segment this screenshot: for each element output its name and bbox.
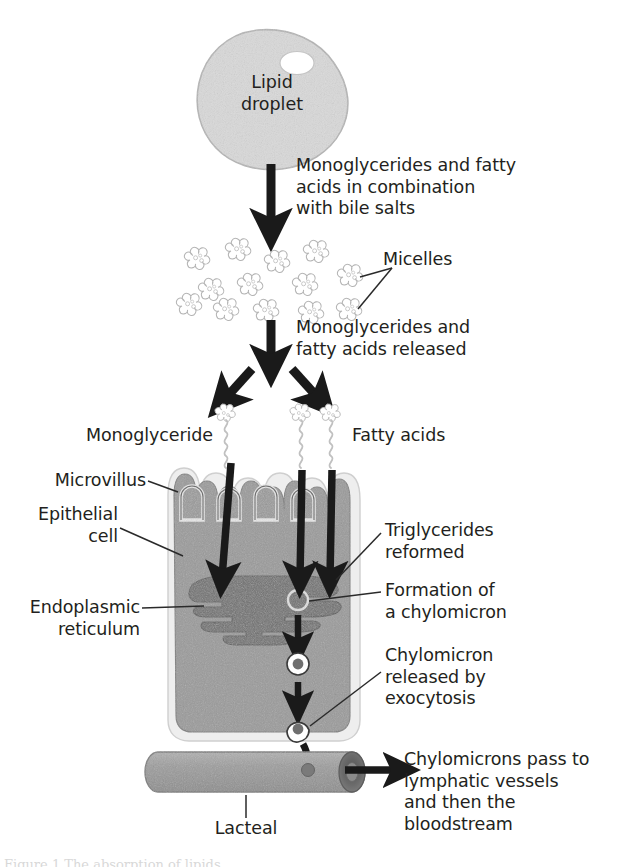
micelles-label: Micelles <box>383 249 452 271</box>
lipid-droplet-label: Lipid droplet <box>222 71 322 115</box>
chylomicron-released-label: Chylomicron released by exocytosis <box>385 645 493 710</box>
triglycerides-reformed-label: Triglycerides reformed <box>385 520 494 563</box>
fatty-acids-label: Fatty acids <box>352 425 445 447</box>
formation-chylomicron-label: Formation of a chylomicron <box>385 580 507 623</box>
vesicle-chylomicron-2-exocytosis <box>287 722 309 742</box>
vesicle-chylomicron-1 <box>287 653 309 675</box>
monoglyceride-label: Monoglyceride <box>86 425 213 447</box>
figure-caption: Figure 1 The absorption of lipids <box>0 857 622 867</box>
epithelial-cell-label: Epithelial cell <box>0 504 118 547</box>
microvillus-label: Microvillus <box>0 470 146 492</box>
diagram-canvas: Lipid droplet Monoglycerides and fatty a… <box>0 0 622 867</box>
endoplasmic-reticulum-label: Endoplasmic reticulum <box>0 597 140 640</box>
lacteal-label: Lacteal <box>196 818 296 840</box>
step-released-label: Monoglycerides and fatty acids released <box>296 317 470 360</box>
lacteal-shape <box>145 752 365 792</box>
step-bile-salts-label: Monoglycerides and fatty acids in combin… <box>296 155 516 220</box>
chylomicrons-pass-label: Chylomicrons pass to lymphatic vessels a… <box>404 749 589 835</box>
